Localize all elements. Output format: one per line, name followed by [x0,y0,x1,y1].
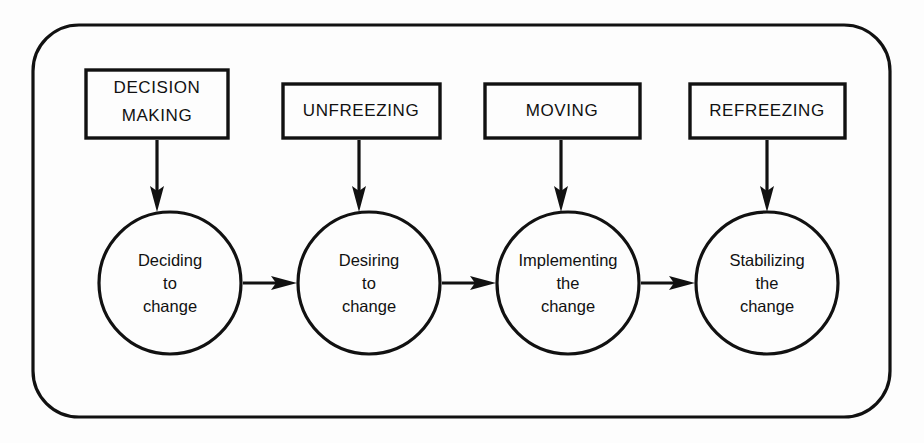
stage-circle-label-refreezing-line3: change [740,297,794,315]
stage-box-label-unfreezing: UNFREEZING [303,101,420,120]
stage-refreezing: REFREEZING Stabilizing the change [690,84,845,354]
stage-circle-label-unfreezing-line1: Desiring [339,251,400,269]
stage-circle-label-decision-making-line1: Deciding [138,251,202,269]
stage-circle-label-moving-line3: change [541,297,595,315]
change-process-diagram: DECISION MAKING Deciding to change UNFRE… [0,0,924,443]
flow-arrow-unfreezing-to-moving [442,276,496,290]
stage-box-label-moving: MOVING [526,101,599,120]
flow-arrow-moving-to-refreezing [641,276,695,290]
diagram-canvas: DECISION MAKING Deciding to change UNFRE… [0,0,924,443]
stage-circle-label-moving-line1: Implementing [518,251,617,269]
stage-unfreezing: UNFREEZING Desiring to change [283,84,440,354]
stage-box-label-refreezing: REFREEZING [709,101,825,120]
stage-decision-making: DECISION MAKING Deciding to change [86,70,241,354]
stage-circle-label-unfreezing-line3: change [342,297,396,315]
stage-circle-label-unfreezing-line2: to [362,274,376,292]
stage-box-label-decision-making: DECISION [114,78,201,97]
stage-moving: MOVING Implementing the change [485,84,640,354]
stage-circle-label-decision-making-line2: to [163,274,177,292]
stage-box-label-decision-making-line2: MAKING [122,106,193,125]
stage-circle-label-refreezing-line1: Stabilizing [729,251,804,269]
stage-circle-label-decision-making-line3: change [143,297,197,315]
stage-circle-label-moving-line2: the [557,274,580,292]
stage-circle-label-refreezing-line2: the [756,274,779,292]
flow-arrow-decision-making-to-unfreezing [243,276,297,290]
